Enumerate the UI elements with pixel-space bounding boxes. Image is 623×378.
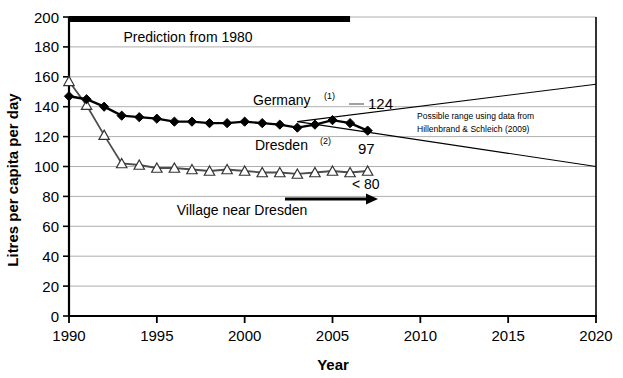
chart-background bbox=[0, 0, 623, 378]
y-tick-label: 100 bbox=[34, 158, 59, 175]
germany-end-value: 124 bbox=[368, 95, 393, 112]
chart-figure: 020406080100120140160180200 199019952000… bbox=[0, 0, 623, 378]
x-tick-label: 1995 bbox=[140, 327, 173, 344]
x-axis-title: Year bbox=[317, 356, 349, 373]
y-tick-label: 60 bbox=[42, 218, 59, 235]
prediction-from-1980-label: Prediction from 1980 bbox=[123, 29, 252, 45]
x-tick-label: 2000 bbox=[228, 327, 261, 344]
dresden-end-value: 97 bbox=[358, 140, 375, 157]
village-threshold-label: < 80 bbox=[352, 176, 380, 192]
possible-range-caption-line2: Hillenbrand & Schleich (2009) bbox=[417, 124, 530, 134]
y-axis-title: Litres per capita per day bbox=[4, 93, 21, 267]
dresden-footnote-marker: (2) bbox=[320, 136, 331, 146]
y-tick-label: 20 bbox=[42, 278, 59, 295]
y-tick-label: 140 bbox=[34, 98, 59, 115]
y-tick-label: 160 bbox=[34, 68, 59, 85]
y-tick-label: 40 bbox=[42, 248, 59, 265]
x-tick-label: 2020 bbox=[579, 327, 612, 344]
y-tick-label: 180 bbox=[34, 38, 59, 55]
x-tick-label: 1990 bbox=[52, 327, 85, 344]
village-near-dresden-label: Village near Dresden bbox=[177, 202, 308, 218]
water-consumption-line-chart: 020406080100120140160180200 199019952000… bbox=[0, 0, 623, 378]
y-tick-label: 0 bbox=[51, 308, 59, 325]
germany-footnote-marker: (1) bbox=[324, 91, 335, 101]
y-tick-label: 80 bbox=[42, 188, 59, 205]
y-tick-label: 120 bbox=[34, 128, 59, 145]
x-tick-label: 2015 bbox=[491, 327, 524, 344]
dresden-series-label: Dresden bbox=[255, 137, 308, 153]
possible-range-caption-line1: Possible range using data from bbox=[417, 111, 534, 121]
x-tick-label: 2010 bbox=[404, 327, 437, 344]
x-tick-label: 2005 bbox=[316, 327, 349, 344]
y-tick-label: 200 bbox=[34, 9, 59, 26]
germany-series-label: Germany bbox=[253, 92, 311, 108]
